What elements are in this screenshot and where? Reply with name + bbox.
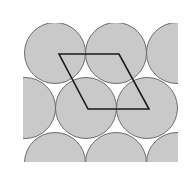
packed-circle <box>86 133 147 180</box>
packed-circle <box>25 133 86 180</box>
packed-circle <box>0 78 56 139</box>
circle-layer <box>0 23 193 180</box>
packed-circle <box>147 133 194 180</box>
packed-circle <box>147 23 194 84</box>
packed-circle <box>117 78 178 139</box>
packing-diagram <box>0 0 193 179</box>
packed-circle <box>56 78 117 139</box>
packed-circle <box>25 23 86 84</box>
packed-circle <box>86 23 147 84</box>
diagram-canvas <box>0 0 193 179</box>
